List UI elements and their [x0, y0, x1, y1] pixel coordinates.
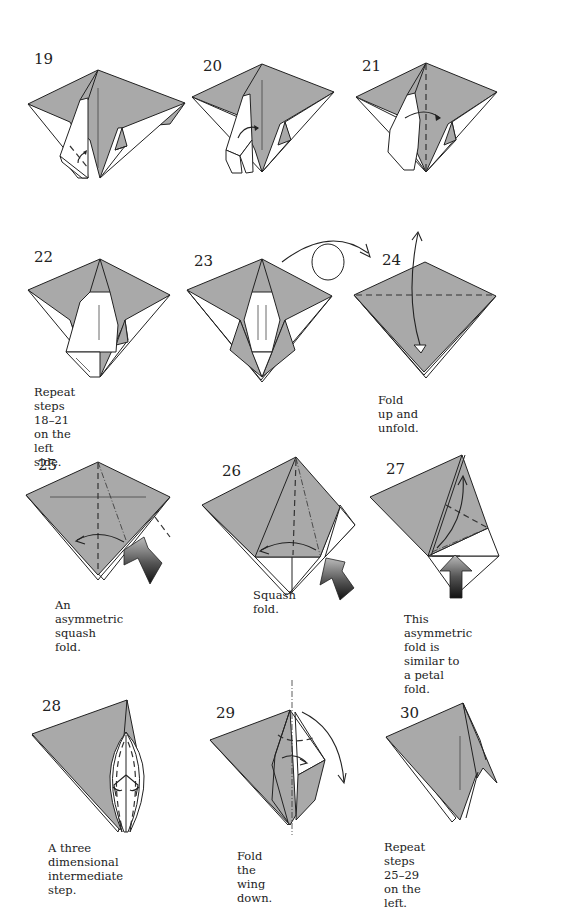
- step-caption: Repeat steps 25–29 on the left.: [384, 840, 425, 910]
